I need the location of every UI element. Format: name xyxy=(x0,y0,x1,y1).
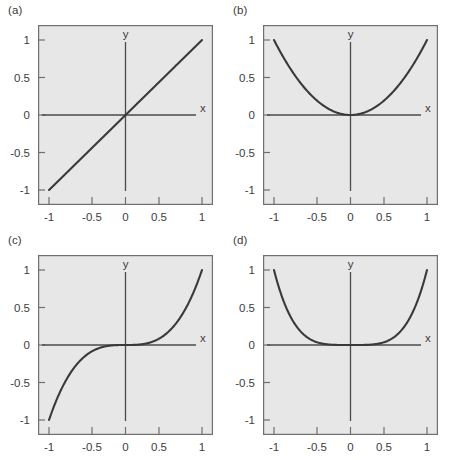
svg-text:1: 1 xyxy=(24,264,30,276)
svg-text:0: 0 xyxy=(347,441,353,453)
function-plots-figure: (a) 1 xyxy=(0,0,450,460)
panel-label-b: (b) xyxy=(233,4,247,16)
svg-text:0.5: 0.5 xyxy=(376,211,392,223)
plot-svg-a: 1 0.5 0 -0.5 -1 -1 -0.5 0 0.5 1 x y xyxy=(38,25,213,205)
svg-text:1: 1 xyxy=(249,34,255,46)
svg-text:0.5: 0.5 xyxy=(239,302,255,314)
x-axis-label: x xyxy=(425,102,431,114)
svg-text:1: 1 xyxy=(424,211,430,223)
svg-text:0: 0 xyxy=(24,339,30,351)
y-tick-labels: 1 0.5 0 -0.5 -1 xyxy=(10,34,30,196)
svg-text:-0.5: -0.5 xyxy=(82,211,102,223)
panel-label-d: (d) xyxy=(233,234,247,246)
svg-text:-1: -1 xyxy=(245,414,255,426)
svg-text:0: 0 xyxy=(122,211,128,223)
svg-text:0: 0 xyxy=(122,441,128,453)
svg-text:1: 1 xyxy=(424,441,430,453)
svg-text:-0.5: -0.5 xyxy=(235,377,255,389)
svg-text:-0.5: -0.5 xyxy=(10,147,30,159)
x-tick-labels: -1 -0.5 0 0.5 1 xyxy=(44,441,205,453)
svg-text:0: 0 xyxy=(249,109,255,121)
y-axis-label: y xyxy=(348,258,354,270)
svg-text:1: 1 xyxy=(249,264,255,276)
x-tick-labels: -1 -0.5 0 0.5 1 xyxy=(269,441,430,453)
svg-text:-0.5: -0.5 xyxy=(82,441,102,453)
x-axis-label: x xyxy=(425,332,431,344)
svg-text:-0.5: -0.5 xyxy=(10,377,30,389)
y-tick-labels: 1 0.5 0 -0.5 -1 xyxy=(235,264,255,426)
plot-svg-d: 1 0.5 0 -0.5 -1 -1 -0.5 0 0.5 1 x y xyxy=(263,255,438,435)
x-tick-labels: -1 -0.5 0 0.5 1 xyxy=(269,211,430,223)
panel-label-c: (c) xyxy=(8,234,22,246)
plot-svg-c: 1 0.5 0 -0.5 -1 -1 -0.5 0 0.5 1 x y xyxy=(38,255,213,435)
svg-text:-1: -1 xyxy=(269,441,279,453)
svg-text:-0.5: -0.5 xyxy=(235,147,255,159)
plot-panel-d: (d) 1 xyxy=(225,230,450,460)
plot-panel-a: (a) 1 xyxy=(0,0,225,230)
panel-label-a: (a) xyxy=(8,4,22,16)
y-axis-label: y xyxy=(123,258,129,270)
svg-text:0.5: 0.5 xyxy=(151,441,167,453)
svg-text:-1: -1 xyxy=(20,414,30,426)
svg-text:0: 0 xyxy=(347,211,353,223)
svg-text:0.5: 0.5 xyxy=(376,441,392,453)
y-tick-labels: 1 0.5 0 -0.5 -1 xyxy=(10,264,30,426)
y-axis-label: y xyxy=(348,28,354,40)
plot-panel-b: (b) 1 xyxy=(225,0,450,230)
svg-text:0: 0 xyxy=(24,109,30,121)
svg-text:-1: -1 xyxy=(44,441,54,453)
plot-area-d: 1 0.5 0 -0.5 -1 -1 -0.5 0 0.5 1 x y xyxy=(263,255,438,435)
svg-text:1: 1 xyxy=(199,441,205,453)
svg-text:0.5: 0.5 xyxy=(14,302,30,314)
svg-text:0: 0 xyxy=(249,339,255,351)
svg-text:0.5: 0.5 xyxy=(151,211,167,223)
svg-text:-1: -1 xyxy=(245,184,255,196)
x-axis-label: x xyxy=(200,102,206,114)
svg-text:0.5: 0.5 xyxy=(14,72,30,84)
plot-panel-c: (c) 1 xyxy=(0,230,225,460)
svg-text:0.5: 0.5 xyxy=(239,72,255,84)
x-axis-label: x xyxy=(200,332,206,344)
x-tick-labels: -1 -0.5 0 0.5 1 xyxy=(44,211,205,223)
svg-text:-1: -1 xyxy=(269,211,279,223)
svg-text:1: 1 xyxy=(199,211,205,223)
svg-text:-0.5: -0.5 xyxy=(307,211,327,223)
plot-svg-b: 1 0.5 0 -0.5 -1 -1 -0.5 0 0.5 1 x y xyxy=(263,25,438,205)
svg-text:-1: -1 xyxy=(44,211,54,223)
plot-area-b: 1 0.5 0 -0.5 -1 -1 -0.5 0 0.5 1 x y xyxy=(263,25,438,205)
svg-text:-0.5: -0.5 xyxy=(307,441,327,453)
plot-area-a: 1 0.5 0 -0.5 -1 -1 -0.5 0 0.5 1 x y xyxy=(38,25,213,205)
y-tick-labels: 1 0.5 0 -0.5 -1 xyxy=(235,34,255,196)
svg-text:1: 1 xyxy=(24,34,30,46)
y-axis-label: y xyxy=(123,28,129,40)
plot-area-c: 1 0.5 0 -0.5 -1 -1 -0.5 0 0.5 1 x y xyxy=(38,255,213,435)
svg-text:-1: -1 xyxy=(20,184,30,196)
